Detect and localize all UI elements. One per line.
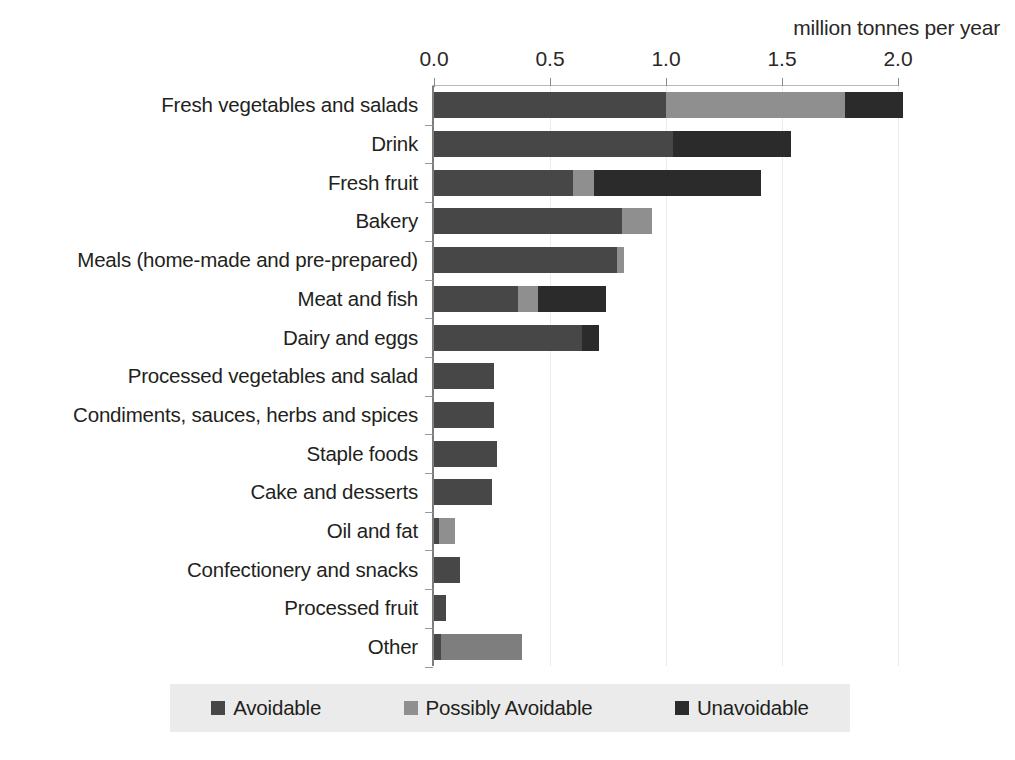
legend-swatch-icon <box>211 701 225 715</box>
axis-title: million tonnes per year <box>640 16 1000 40</box>
bar-row: Oil and fat <box>0 518 1015 544</box>
bar-track <box>434 208 652 234</box>
bar-segment-avoidable <box>434 595 446 621</box>
category-label: Condiments, sauces, herbs and spices <box>0 403 418 427</box>
bar-row: Cake and desserts <box>0 479 1015 505</box>
bar-segment-possibly-avoidable <box>622 208 652 234</box>
bar-segment-possibly-avoidable <box>518 286 539 312</box>
bar-row: Fresh vegetables and salads <box>0 92 1015 118</box>
category-label: Drink <box>0 132 418 156</box>
bar-segment-unavoidable <box>594 170 761 196</box>
category-label: Staple foods <box>0 442 418 466</box>
bar-row: Meat and fish <box>0 286 1015 312</box>
x-tick-label: 1.0 <box>651 47 680 71</box>
bar-segment-avoidable <box>434 402 494 428</box>
bar-row: Fresh fruit <box>0 170 1015 196</box>
bar-track <box>434 325 599 351</box>
bar-track <box>434 479 492 505</box>
legend-swatch-icon <box>404 701 418 715</box>
bar-segment-avoidable <box>434 441 497 467</box>
bar-track <box>434 131 791 157</box>
bar-segment-unavoidable <box>582 325 598 351</box>
bar-segment-avoidable <box>434 557 460 583</box>
category-label: Meals (home-made and pre-prepared) <box>0 248 418 272</box>
legend-item[interactable]: Unavoidable <box>675 696 809 720</box>
bar-row: Processed fruit <box>0 595 1015 621</box>
bar-track <box>434 92 903 118</box>
legend-item[interactable]: Possibly Avoidable <box>404 696 593 720</box>
category-label: Oil and fat <box>0 519 418 543</box>
x-tick-label: 1.5 <box>767 47 796 71</box>
category-label: Other <box>0 635 418 659</box>
bar-track <box>434 170 761 196</box>
x-tick-label: 0.5 <box>535 47 564 71</box>
bar-row: Other <box>0 634 1015 660</box>
bar-segment-possibly-avoidable <box>441 634 522 660</box>
stacked-bar-chart: million tonnes per year 0.00.51.01.52.0 … <box>0 0 1015 760</box>
bar-segment-avoidable <box>434 92 666 118</box>
bar-segment-avoidable <box>434 325 582 351</box>
bar-segment-avoidable <box>434 634 441 660</box>
category-label: Processed fruit <box>0 596 418 620</box>
category-label: Confectionery and snacks <box>0 558 418 582</box>
legend-label: Avoidable <box>233 696 321 720</box>
bar-track <box>434 557 460 583</box>
x-axis-tick-labels: 0.00.51.01.52.0 <box>0 47 1015 73</box>
bar-track <box>434 402 494 428</box>
bar-segment-avoidable <box>434 286 518 312</box>
bar-track <box>434 634 522 660</box>
bar-row: Condiments, sauces, herbs and spices <box>0 402 1015 428</box>
bar-segment-avoidable <box>434 247 617 273</box>
bar-row: Dairy and eggs <box>0 325 1015 351</box>
category-label: Dairy and eggs <box>0 326 418 350</box>
bar-row: Processed vegetables and salad <box>0 363 1015 389</box>
legend-swatch-icon <box>675 701 689 715</box>
bar-track <box>434 363 494 389</box>
bar-segment-avoidable <box>434 170 573 196</box>
bar-segment-possibly-avoidable <box>439 518 455 544</box>
category-label: Bakery <box>0 209 418 233</box>
x-tick-label: 2.0 <box>883 47 912 71</box>
bar-row: Meals (home-made and pre-prepared) <box>0 247 1015 273</box>
category-label: Fresh vegetables and salads <box>0 93 418 117</box>
bar-segment-avoidable <box>434 208 622 234</box>
bar-segment-avoidable <box>434 131 673 157</box>
bar-track <box>434 595 446 621</box>
bar-row: Staple foods <box>0 441 1015 467</box>
bar-segment-possibly-avoidable <box>666 92 845 118</box>
bar-row: Drink <box>0 131 1015 157</box>
bar-row: Confectionery and snacks <box>0 557 1015 583</box>
bar-segment-avoidable <box>434 363 494 389</box>
category-label: Cake and desserts <box>0 480 418 504</box>
bar-row: Bakery <box>0 208 1015 234</box>
bar-segment-avoidable <box>434 479 492 505</box>
x-tick-label: 0.0 <box>419 47 448 71</box>
bar-track <box>434 286 606 312</box>
bar-segment-possibly-avoidable <box>573 170 594 196</box>
category-label: Meat and fish <box>0 287 418 311</box>
category-label: Fresh fruit <box>0 171 418 195</box>
bar-segment-unavoidable <box>538 286 605 312</box>
legend-label: Possibly Avoidable <box>426 696 593 720</box>
category-label: Processed vegetables and salad <box>0 364 418 388</box>
bar-segment-unavoidable <box>845 92 903 118</box>
bar-segment-unavoidable <box>673 131 791 157</box>
chart-legend: AvoidablePossibly AvoidableUnavoidable <box>170 684 850 732</box>
legend-item[interactable]: Avoidable <box>211 696 321 720</box>
bar-segment-possibly-avoidable <box>617 247 624 273</box>
bar-track <box>434 441 497 467</box>
bar-track <box>434 247 624 273</box>
y-tick-mark <box>425 667 433 668</box>
legend-label: Unavoidable <box>697 696 809 720</box>
bar-track <box>434 518 455 544</box>
